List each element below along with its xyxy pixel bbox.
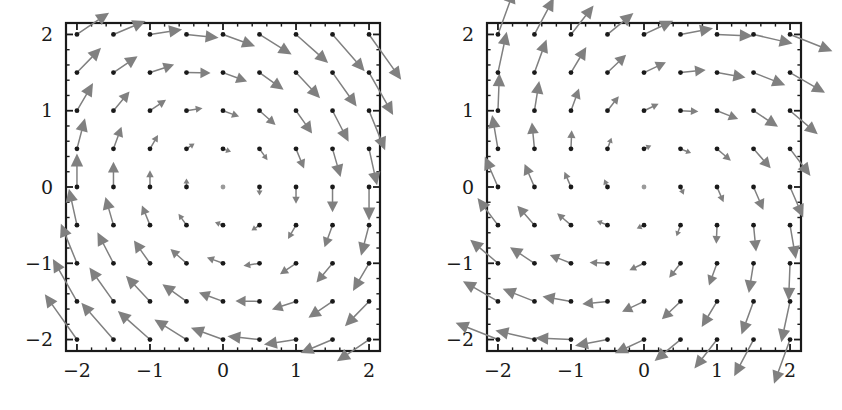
arrow-shaft bbox=[494, 128, 498, 149]
arrow-shaft bbox=[203, 332, 223, 339]
left-plot-panel: −2−1012−2−1012 bbox=[0, 0, 421, 410]
arrow-shaft bbox=[296, 73, 311, 89]
arrow-shaft bbox=[480, 248, 498, 263]
arrow-shaft bbox=[109, 209, 114, 225]
arrow-shaft bbox=[369, 111, 380, 138]
grid-point bbox=[788, 337, 793, 342]
arrow-shaft bbox=[128, 320, 150, 340]
grid-point bbox=[257, 146, 262, 151]
grid-point bbox=[221, 108, 226, 113]
arrow-shaft bbox=[360, 263, 370, 279]
x-tick-label: −1 bbox=[136, 359, 164, 381]
arrow-head bbox=[262, 154, 268, 161]
arrow-shaft bbox=[490, 168, 498, 187]
arrow-shaft bbox=[333, 34, 357, 61]
grid-point bbox=[111, 108, 116, 113]
arrow-head bbox=[277, 42, 291, 54]
x-tick-label: 1 bbox=[290, 359, 302, 381]
arrow-shaft bbox=[150, 31, 169, 34]
grid-point bbox=[184, 108, 189, 113]
arrow-shaft bbox=[165, 326, 186, 339]
arrow-head bbox=[788, 245, 800, 259]
grid-point bbox=[605, 108, 610, 113]
arrow-shaft bbox=[66, 236, 77, 263]
grid-point bbox=[330, 32, 335, 37]
x-tick-label: 0 bbox=[638, 359, 650, 381]
grid-point bbox=[111, 185, 116, 190]
arrow-head bbox=[178, 214, 184, 221]
arrow-shaft bbox=[571, 16, 586, 35]
fixed-point bbox=[221, 185, 226, 190]
grid-point bbox=[330, 337, 335, 342]
arrow-head bbox=[745, 280, 757, 293]
y-tick-label: −1 bbox=[25, 252, 53, 274]
grid-point bbox=[678, 70, 683, 75]
arrow-head bbox=[732, 69, 745, 81]
arrow-shaft bbox=[260, 73, 274, 83]
arrow-head bbox=[146, 170, 153, 177]
arrow-head bbox=[76, 118, 88, 132]
grid-point bbox=[678, 223, 683, 228]
grid-point bbox=[532, 185, 537, 190]
grid-point bbox=[330, 223, 335, 228]
grid-point bbox=[788, 70, 793, 75]
grid-point bbox=[257, 185, 262, 190]
arrow-shaft bbox=[751, 263, 754, 280]
grid-point bbox=[221, 223, 226, 228]
grid-point bbox=[75, 223, 80, 228]
left-vector-field-svg: −2−1012−2−1012 bbox=[0, 0, 421, 410]
arrow-head bbox=[527, 123, 539, 135]
grid-point bbox=[642, 32, 647, 37]
grid-point bbox=[605, 223, 610, 228]
arrow-head bbox=[695, 65, 706, 76]
arrow-shaft bbox=[548, 339, 571, 340]
grid-point bbox=[751, 146, 756, 151]
right-plot-panel: −2−1012−2−1012 bbox=[421, 0, 842, 410]
grid-point bbox=[642, 261, 647, 266]
arrow-head bbox=[582, 297, 593, 308]
arrow-head bbox=[368, 171, 380, 185]
arrow-shaft bbox=[103, 244, 113, 263]
y-tick-label: −1 bbox=[446, 252, 474, 274]
arrow-shaft bbox=[520, 254, 534, 263]
grid-point bbox=[184, 185, 189, 190]
arrow-head bbox=[195, 106, 202, 113]
arrow-head bbox=[292, 197, 299, 204]
arrow-shaft bbox=[681, 31, 701, 35]
grid-point bbox=[221, 70, 226, 75]
grid-point bbox=[184, 32, 189, 37]
grid-point bbox=[751, 32, 756, 37]
arrow-head bbox=[535, 332, 548, 344]
arrow-head bbox=[45, 294, 58, 308]
arrow-shaft bbox=[498, 44, 504, 72]
arrow-head bbox=[575, 337, 589, 349]
arrow-head bbox=[740, 29, 753, 41]
grid-point bbox=[569, 185, 574, 190]
grid-point bbox=[569, 337, 574, 342]
arrow-head bbox=[103, 197, 115, 211]
arrow-shaft bbox=[369, 73, 387, 104]
y-tick-label: 0 bbox=[41, 176, 53, 198]
grid-point bbox=[257, 32, 262, 37]
arrow-shaft bbox=[141, 250, 150, 263]
grid-point bbox=[367, 299, 372, 304]
grid-point bbox=[532, 108, 537, 113]
arrow-shaft bbox=[296, 34, 318, 54]
x-tick-label: 2 bbox=[363, 359, 375, 381]
arrow-shaft bbox=[77, 131, 82, 149]
arrow-head bbox=[694, 354, 707, 368]
y-tick-label: 1 bbox=[462, 99, 474, 121]
arrow-shaft bbox=[113, 26, 133, 34]
arrow-head bbox=[783, 287, 795, 300]
arrow-head bbox=[749, 240, 761, 252]
grid-point bbox=[605, 299, 610, 304]
y-tick-label: 2 bbox=[462, 23, 474, 45]
arrow-shaft bbox=[113, 63, 127, 72]
grid-point bbox=[184, 337, 189, 342]
grid-point bbox=[184, 261, 189, 266]
arrow-head bbox=[331, 163, 343, 177]
x-tick-label: −2 bbox=[63, 359, 91, 381]
grid-point bbox=[678, 261, 683, 266]
arrow-head bbox=[575, 47, 587, 61]
y-tick-label: −2 bbox=[25, 328, 53, 350]
